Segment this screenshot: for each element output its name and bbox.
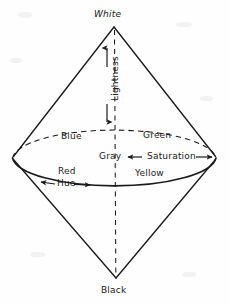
label-white: White	[94, 10, 121, 19]
label-gray: Gray	[99, 152, 121, 161]
label-hue: Hue	[57, 179, 76, 188]
bicone-figure: White Lightness Blue Green Gray Saturati…	[0, 0, 229, 304]
label-blue: Blue	[61, 132, 82, 141]
label-red: Red	[58, 167, 76, 176]
label-saturation: Saturation	[147, 152, 196, 161]
label-lightness: Lightness	[111, 56, 120, 101]
label-yellow: Yellow	[135, 169, 164, 178]
label-black: Black	[101, 286, 126, 295]
label-green: Green	[143, 131, 171, 140]
